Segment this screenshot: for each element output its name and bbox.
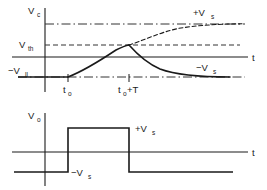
upper-minus-vs-label-sub: s xyxy=(213,68,217,75)
lower-plus-vs-label: +V s xyxy=(135,123,156,136)
upper-panel-capacitor-voltage: V c V th −V ll +V s −V s t t o xyxy=(8,5,255,97)
tick-label-t0-main: t xyxy=(63,84,66,95)
waveform-figure: V c V th −V ll +V s −V s t t o xyxy=(0,0,267,190)
upper-plus-vs-label-sub: s xyxy=(211,13,215,20)
tick-label-t0-plus-T: t o +T xyxy=(118,84,139,97)
tick-label-t0T-main: t xyxy=(118,84,121,95)
vth-label-main: V xyxy=(19,39,26,50)
vth-label-sub: th xyxy=(28,45,34,52)
lower-t-axis-label: t xyxy=(252,147,255,158)
figure-svg: V c V th −V ll +V s −V s t t o xyxy=(0,0,267,190)
lower-plus-vs-label-main: +V xyxy=(135,123,148,134)
upper-plus-vs-label-main: +V xyxy=(193,7,206,18)
lower-minus-vs-label-sub: s xyxy=(88,173,92,180)
upper-y-axis-label: V c xyxy=(28,5,41,18)
lower-plus-vs-label-sub: s xyxy=(152,129,156,136)
tick-label-t0: t o xyxy=(63,84,72,97)
lower-minus-vs-label-main: −V xyxy=(71,167,84,178)
upper-y-axis-label-sub: c xyxy=(37,11,41,18)
asymptotic-continuation-curve xyxy=(129,24,242,45)
upper-t-axis-label: t xyxy=(252,52,255,63)
lower-panel-output-voltage: V o +V s −V s t xyxy=(12,110,255,186)
lower-y-axis-label-main: V xyxy=(28,110,35,121)
lower-minus-vs-label: −V s xyxy=(71,167,92,180)
upper-plus-vs-label: +V s xyxy=(193,7,215,20)
lower-y-axis-label: V o xyxy=(28,110,41,123)
capacitor-charge-rise-curve xyxy=(68,45,129,77)
vll-label-main: −V xyxy=(8,65,21,76)
upper-minus-vs-label-main: −V xyxy=(196,62,209,73)
vth-level-label: V th xyxy=(19,39,34,52)
tick-label-t0T-suffix: +T xyxy=(127,84,139,95)
vll-level-label: −V ll xyxy=(8,65,28,78)
lower-y-axis-label-sub: o xyxy=(37,116,41,123)
output-square-wave xyxy=(14,128,233,172)
tick-label-t0-sub: o xyxy=(68,90,72,97)
upper-minus-vs-label: −V s xyxy=(196,62,217,75)
upper-y-axis-label-main: V xyxy=(28,5,35,16)
